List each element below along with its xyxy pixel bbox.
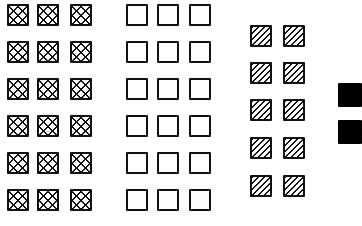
cross-hatched-square-r6c2 <box>37 189 59 211</box>
solid-black-square-r1c1 <box>338 83 362 107</box>
empty-square-r5c2 <box>157 152 179 174</box>
empty-square-r1c2 <box>157 4 179 26</box>
diagonal-hatched-square-r3c2 <box>283 99 305 121</box>
diagonal-hatched-square-r2c1 <box>250 62 272 84</box>
empty-square-r2c1 <box>126 41 148 63</box>
cross-hatched-square-r4c3 <box>70 115 92 137</box>
cross-hatched-square-r5c1 <box>7 152 29 174</box>
diagonal-hatched-square-r5c2 <box>283 175 305 197</box>
empty-square-r1c3 <box>189 4 211 26</box>
cross-hatched-square-r4c2 <box>37 115 59 137</box>
empty-square-r5c3 <box>189 152 211 174</box>
solid-black-square-r2c1 <box>338 120 362 144</box>
empty-square-r2c2 <box>157 41 179 63</box>
cross-hatched-square-r5c2 <box>37 152 59 174</box>
empty-square-r3c3 <box>189 78 211 100</box>
empty-square-r2c3 <box>189 41 211 63</box>
diagonal-hatched-square-r1c2 <box>283 25 305 47</box>
empty-square-r4c3 <box>189 115 211 137</box>
empty-square-r4c1 <box>126 115 148 137</box>
empty-square-r3c2 <box>157 78 179 100</box>
empty-square-r6c3 <box>189 189 211 211</box>
diagonal-hatched-square-r5c1 <box>250 175 272 197</box>
cross-hatched-square-r2c2 <box>37 41 59 63</box>
cross-hatched-square-r6c1 <box>7 189 29 211</box>
cross-hatched-square-r3c2 <box>37 78 59 100</box>
cross-hatched-square-r1c2 <box>37 4 59 26</box>
diagonal-hatched-square-r1c1 <box>250 25 272 47</box>
diagonal-hatched-square-r4c1 <box>250 137 272 159</box>
diagonal-hatched-square-r4c2 <box>283 137 305 159</box>
cross-hatched-square-r1c1 <box>7 4 29 26</box>
cross-hatched-square-r3c3 <box>70 78 92 100</box>
empty-square-r5c1 <box>126 152 148 174</box>
empty-square-r1c1 <box>126 4 148 26</box>
cross-hatched-square-r3c1 <box>7 78 29 100</box>
cross-hatched-square-r2c3 <box>70 41 92 63</box>
empty-square-r6c1 <box>126 189 148 211</box>
cross-hatched-square-r6c3 <box>70 189 92 211</box>
cross-hatched-square-r1c3 <box>70 4 92 26</box>
cross-hatched-square-r5c3 <box>70 152 92 174</box>
cross-hatched-square-r2c1 <box>7 41 29 63</box>
empty-square-r3c1 <box>126 78 148 100</box>
empty-square-r6c2 <box>157 189 179 211</box>
empty-square-r4c2 <box>157 115 179 137</box>
cross-hatched-square-r4c1 <box>7 115 29 137</box>
diagonal-hatched-square-r2c2 <box>283 62 305 84</box>
diagonal-hatched-square-r3c1 <box>250 99 272 121</box>
